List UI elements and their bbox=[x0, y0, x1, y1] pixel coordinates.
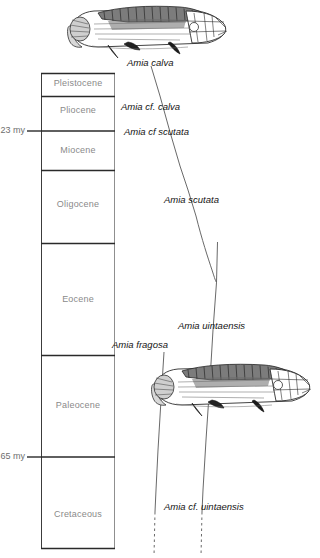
fish-caudal-peduncle bbox=[154, 375, 174, 399]
fish-eye bbox=[190, 23, 199, 32]
lineage-lines bbox=[151, 66, 218, 556]
age-marker-23my: 23 my bbox=[0, 125, 25, 135]
fish-anal-fin bbox=[192, 403, 202, 416]
taxon-label-amia-calva: Amia calva bbox=[127, 57, 173, 68]
lineage-uintaensis-upper-stem bbox=[217, 242, 218, 283]
epoch-label-paleocene: Paleocene bbox=[41, 400, 115, 410]
fish-anal-fin bbox=[108, 45, 118, 58]
age-marker-65my: 65 my bbox=[0, 451, 25, 461]
fish-caudal-peduncle bbox=[70, 17, 90, 41]
epoch-label-pleistocene: Pleistocene bbox=[41, 78, 115, 88]
taxon-label-amia-scutata: Amia scutata bbox=[164, 194, 219, 205]
lineage-calva-to-scutata bbox=[151, 66, 217, 283]
epoch-label-oligocene: Oligocene bbox=[41, 199, 115, 209]
epoch-label-eocene: Eocene bbox=[41, 294, 115, 304]
taxon-label-amia-cf-uintaensis: Amia cf. uintaensis bbox=[164, 501, 244, 512]
stratigraphic-range-figure: Pleistocene Pliocene Miocene Oligocene E… bbox=[0, 0, 320, 558]
taxon-label-amia-uintaensis: Amia uintaensis bbox=[178, 320, 245, 331]
epoch-label-pliocene: Pliocene bbox=[41, 105, 115, 115]
amia-calva-fish-drawing bbox=[68, 6, 227, 58]
amia-uintaensis-fish-drawing bbox=[152, 364, 311, 416]
taxon-label-amia-cf-calva: Amia cf. calva bbox=[121, 101, 180, 112]
fish-eye bbox=[274, 381, 283, 390]
taxon-label-amia-cf-scutata: Amia cf scutata bbox=[124, 126, 189, 137]
epoch-label-miocene: Miocene bbox=[41, 145, 115, 155]
lineage-fragosa-dotted bbox=[154, 512, 155, 556]
epoch-label-cretaceous: Cretaceous bbox=[41, 509, 115, 519]
taxon-label-amia-fragosa: Amia fragosa bbox=[112, 339, 168, 350]
lineage-uintaensis-stem-dotted bbox=[201, 512, 202, 556]
